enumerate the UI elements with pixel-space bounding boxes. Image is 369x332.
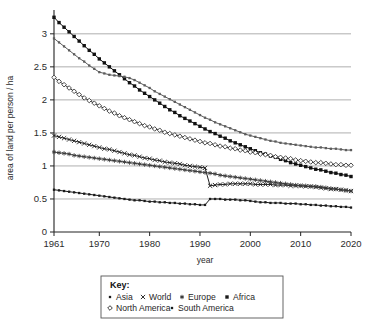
- marker-small-dot: [103, 195, 105, 197]
- marker-filled-square: [324, 170, 327, 173]
- marker-small-dot: [294, 202, 296, 204]
- marker-small-dot: [83, 60, 85, 62]
- marker-small-dot: [274, 202, 276, 204]
- marker-filled-square: [228, 139, 231, 142]
- marker-small-dot: [179, 103, 181, 105]
- marker-small-dot: [204, 117, 206, 119]
- marker-filled-square: [198, 125, 201, 128]
- marker-small-dot: [169, 98, 171, 100]
- marker-filled-square: [314, 168, 317, 171]
- marker-small-dot: [68, 49, 70, 51]
- marker-small-dot: [214, 198, 216, 200]
- marker-small-dot: [199, 204, 201, 206]
- marker-filled-square: [208, 130, 211, 133]
- marker-small-dot: [305, 203, 307, 205]
- marker-small-dot: [83, 193, 85, 195]
- marker-small-dot: [58, 189, 60, 191]
- marker-small-dot: [169, 202, 171, 204]
- marker-small-dot: [219, 198, 221, 200]
- marker-small-dot: [98, 71, 100, 73]
- marker-small-dot: [229, 198, 231, 200]
- marker-filled-square: [225, 295, 228, 298]
- x-tick-label: 1961: [43, 238, 64, 249]
- legend-item-south-america[interactable]: South America: [171, 303, 234, 313]
- x-tick-label: 1970: [89, 238, 110, 249]
- marker-small-dot: [78, 192, 80, 194]
- marker-filled-square: [77, 39, 80, 42]
- marker-filled-square: [67, 30, 70, 33]
- marker-filled-square: [304, 165, 307, 168]
- marker-small-dot: [330, 205, 332, 207]
- marker-filled-square: [173, 111, 176, 114]
- marker-small-dot: [109, 296, 111, 298]
- land-area-per-person-line-chart: 00.511.522.53 19611970198019902000201020…: [0, 0, 369, 332]
- legend-label: South America: [178, 303, 234, 313]
- marker-small-dot: [194, 203, 196, 205]
- marker-small-dot: [63, 45, 65, 47]
- marker-filled-square: [72, 35, 75, 38]
- marker-small-dot: [264, 138, 266, 140]
- marker-small-dot: [269, 202, 271, 204]
- marker-small-dot: [199, 114, 201, 116]
- marker-filled-square: [178, 114, 181, 117]
- marker-filled-square: [334, 172, 337, 175]
- marker-filled-square: [213, 132, 216, 135]
- marker-filled-square: [133, 84, 136, 87]
- y-tick-label: 0: [42, 226, 47, 237]
- marker-filled-square: [203, 127, 206, 130]
- marker-small-dot: [274, 140, 276, 142]
- marker-filled-square: [57, 21, 60, 24]
- legend-label: North America: [116, 303, 171, 313]
- marker-filled-square: [128, 81, 131, 84]
- marker-filled-square: [329, 171, 332, 174]
- marker-filled-square: [234, 141, 237, 144]
- marker-filled-square: [143, 92, 146, 95]
- marker-small-dot: [229, 127, 231, 129]
- chart-legend: Key:AsiaWorldEuropeAfricaNorth AmericaSo…: [101, 276, 283, 318]
- marker-small-dot: [184, 202, 186, 204]
- marker-small-dot: [73, 53, 75, 55]
- marker-filled-square: [183, 117, 186, 120]
- marker-small-dot: [234, 198, 236, 200]
- marker-small-dot: [315, 146, 317, 148]
- marker-small-dot: [98, 195, 100, 197]
- marker-small-dot: [279, 142, 281, 144]
- marker-small-dot: [174, 202, 176, 204]
- legend-label: Europe: [188, 292, 216, 302]
- marker-small-dot: [138, 199, 140, 201]
- marker-small-dot: [154, 200, 156, 202]
- marker-small-dot: [219, 123, 221, 125]
- y-tick-label: 0.5: [34, 193, 47, 204]
- marker-filled-square: [193, 122, 196, 125]
- marker-small-dot: [224, 125, 226, 127]
- marker-small-dot: [284, 202, 286, 204]
- marker-small-dot: [68, 191, 70, 193]
- marker-filled-square: [339, 173, 342, 176]
- y-tick-label: 1: [42, 160, 47, 171]
- marker-small-dot: [315, 204, 317, 206]
- marker-small-dot: [63, 190, 65, 192]
- legend-item-north-america[interactable]: North America: [108, 303, 171, 313]
- marker-small-dot: [174, 101, 176, 103]
- marker-filled-square: [83, 44, 86, 47]
- marker-small-dot: [239, 199, 241, 201]
- marker-small-dot: [93, 194, 95, 196]
- marker-filled-square: [88, 49, 91, 52]
- x-tick-label: 1990: [189, 238, 210, 249]
- marker-small-dot: [148, 87, 150, 89]
- legend-label: World: [149, 292, 172, 302]
- marker-small-dot: [249, 200, 251, 202]
- marker-small-dot: [154, 90, 156, 92]
- marker-small-dot: [204, 204, 206, 206]
- marker-small-dot: [113, 196, 115, 198]
- marker-small-dot: [148, 200, 150, 202]
- x-tick-label: 2000: [240, 238, 261, 249]
- marker-small-dot: [133, 79, 135, 81]
- marker-filled-square: [299, 164, 302, 167]
- marker-small-dot: [249, 134, 251, 136]
- marker-small-dot: [143, 200, 145, 202]
- marker-filled-square: [223, 136, 226, 139]
- marker-small-dot: [269, 140, 271, 142]
- marker-small-dot: [209, 198, 211, 200]
- marker-small-dot: [159, 93, 161, 95]
